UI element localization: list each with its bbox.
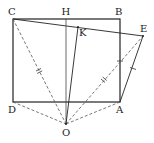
label-d: D [8, 104, 16, 115]
point-e [142, 35, 144, 37]
point-o [65, 123, 67, 125]
label-c: C [8, 6, 16, 17]
rectangle-abcd [13, 19, 120, 102]
tick-marks [36, 61, 136, 83]
segment-co [13, 19, 66, 124]
label-h: H [62, 6, 71, 17]
segment-oe [66, 36, 143, 124]
segment-ae [120, 36, 143, 102]
label-b: B [115, 6, 122, 17]
label-a: A [115, 104, 124, 115]
segment-do [13, 102, 66, 124]
label-e: E [140, 23, 147, 34]
segment-ao [66, 102, 120, 124]
label-o: O [62, 127, 70, 138]
geometry-diagram: C H B K E D A O [0, 0, 154, 143]
segment-ko [66, 27, 78, 124]
label-k: K [79, 27, 87, 38]
